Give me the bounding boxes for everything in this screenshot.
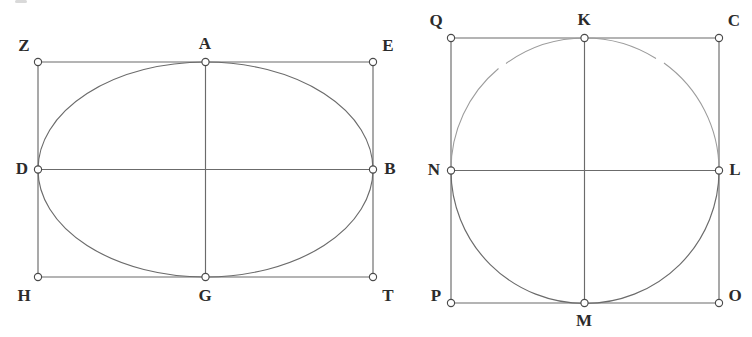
point-label-N: N xyxy=(428,160,441,179)
point-marker-E xyxy=(369,58,376,65)
point-marker-P xyxy=(447,299,454,306)
point-label-T: T xyxy=(382,286,394,305)
point-marker-H xyxy=(34,273,41,280)
point-label-D: D xyxy=(16,159,28,178)
point-label-O: O xyxy=(728,286,741,305)
point-marker-M xyxy=(581,299,588,306)
scan-artifact-smudge xyxy=(15,0,27,3)
geometry-figure-canvas: Z A E D B H G T xyxy=(0,0,752,337)
point-label-Z: Z xyxy=(18,36,29,55)
point-label-A: A xyxy=(199,34,212,53)
point-label-C: C xyxy=(728,11,740,30)
point-label-L: L xyxy=(729,160,740,179)
circle-upper-left-arc-b xyxy=(506,38,585,64)
point-label-M: M xyxy=(576,311,592,330)
circle-upper-right-arc-a xyxy=(585,38,657,59)
point-marker-G xyxy=(202,273,209,280)
point-marker-K xyxy=(581,34,588,41)
point-label-Q: Q xyxy=(429,11,442,30)
point-marker-C xyxy=(715,34,722,41)
point-label-P: P xyxy=(431,286,441,305)
right-figure-circle-in-square: Q K C N L P M O xyxy=(428,10,742,330)
point-marker-T xyxy=(369,273,376,280)
point-marker-O xyxy=(715,299,722,306)
left-figure-ellipse-in-rectangle: Z A E D B H G T xyxy=(16,34,396,305)
point-label-G: G xyxy=(198,286,211,305)
circle-upper-left-arc-a xyxy=(451,69,499,171)
point-label-E: E xyxy=(382,36,393,55)
point-label-K: K xyxy=(577,10,591,29)
point-marker-N xyxy=(447,167,454,174)
point-marker-B xyxy=(369,166,376,173)
point-marker-Q xyxy=(447,34,454,41)
point-label-H: H xyxy=(17,286,30,305)
point-marker-L xyxy=(715,167,722,174)
point-marker-D xyxy=(34,166,41,173)
point-marker-Z xyxy=(34,58,41,65)
point-marker-A xyxy=(202,58,209,65)
point-label-B: B xyxy=(384,159,395,178)
circle-upper-right-arc-b xyxy=(664,63,719,171)
diagram-page: Z A E D B H G T xyxy=(0,0,752,337)
